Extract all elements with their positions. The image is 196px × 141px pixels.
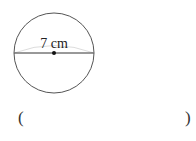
answer-open-paren: ( — [18, 108, 24, 128]
diameter-label: 7 cm — [40, 36, 68, 51]
center-point — [52, 51, 56, 55]
answer-blank[interactable] — [32, 108, 182, 128]
answer-close-paren: ) — [185, 108, 191, 128]
